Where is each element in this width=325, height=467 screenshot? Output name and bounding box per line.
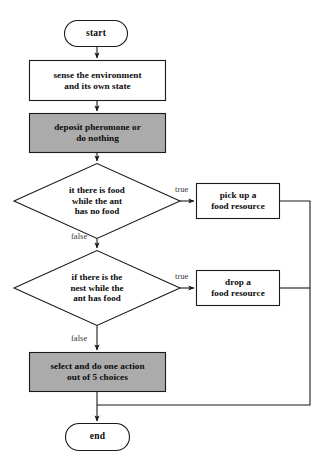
drop-process-shape — [197, 271, 280, 306]
decision-food-shape — [14, 164, 180, 239]
flowchart-canvas — [0, 0, 325, 467]
select-process-shape — [30, 353, 166, 392]
decision-nest-shape — [14, 251, 180, 326]
flowchart-diagram: start sense the environment and its own … — [0, 0, 325, 467]
sense-process-shape — [30, 61, 166, 101]
end-terminator-shape — [66, 424, 130, 451]
start-terminator-shape — [65, 21, 128, 47]
deposit-process-shape — [30, 114, 166, 153]
pick-up-process-shape — [197, 184, 280, 219]
